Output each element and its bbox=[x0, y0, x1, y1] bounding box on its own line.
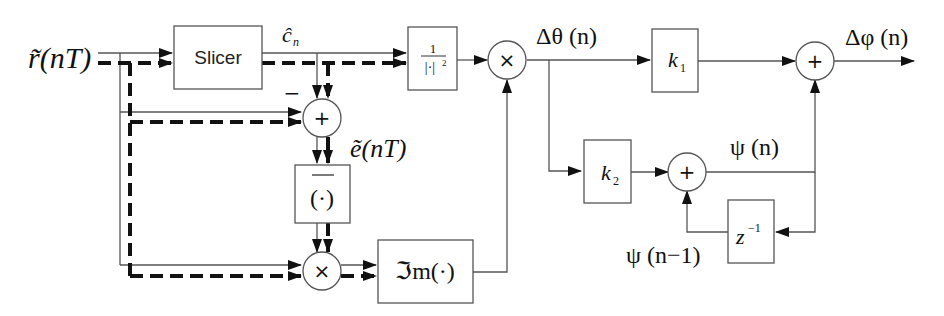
delta-phi-label: Δφ (n) bbox=[845, 24, 908, 50]
delta-theta-label: Δθ (n) bbox=[536, 23, 597, 49]
inverse-magnitude-block: 1 |·| 2 bbox=[408, 27, 457, 90]
minus-sign: − bbox=[284, 81, 301, 105]
dashed-signal-paths bbox=[98, 63, 406, 276]
conj-multiply-node: × bbox=[303, 252, 341, 290]
normalize-multiply-node: × bbox=[488, 41, 526, 79]
k1-gain-block: k 1 bbox=[652, 29, 698, 92]
svg-text:+: + bbox=[679, 160, 696, 184]
svg-text:2: 2 bbox=[442, 58, 447, 68]
svg-text:+: + bbox=[314, 106, 331, 130]
svg-text:×: × bbox=[499, 48, 516, 72]
svg-text:|·|: |·| bbox=[425, 60, 435, 75]
svg-text:1: 1 bbox=[430, 41, 437, 56]
svg-text:k: k bbox=[668, 47, 679, 72]
error-sum-node: + − bbox=[284, 81, 341, 137]
svg-text:z: z bbox=[735, 224, 745, 249]
svg-text:1: 1 bbox=[680, 61, 686, 75]
slicer-output-label: ĉ n bbox=[282, 22, 299, 49]
psi-prev-label: ψ (n−1) bbox=[626, 242, 701, 268]
svg-text:(·): (·) bbox=[310, 185, 334, 211]
svg-text:×: × bbox=[314, 259, 331, 283]
slicer-label: Slicer bbox=[194, 47, 242, 68]
svg-text:+: + bbox=[807, 49, 824, 73]
conjugate-block: (·) bbox=[295, 165, 350, 223]
svg-text:−1: −1 bbox=[748, 221, 761, 235]
k2-gain-block: k 2 bbox=[584, 140, 631, 203]
error-signal-label: ẽ(nT) bbox=[350, 134, 406, 163]
svg-text:ĉ: ĉ bbox=[282, 22, 292, 47]
imag-part-block: ℑm(·) bbox=[378, 240, 473, 303]
slicer-block: Slicer bbox=[174, 26, 262, 89]
svg-text:k: k bbox=[601, 160, 612, 185]
integrator-sum-node: + bbox=[668, 153, 706, 191]
psi-label: ψ (n) bbox=[730, 134, 779, 160]
svg-text:2: 2 bbox=[613, 174, 619, 188]
svg-text:n: n bbox=[293, 35, 299, 49]
input-signal-label: r̃(nT) bbox=[28, 41, 91, 75]
svg-text:ℑm(·): ℑm(·) bbox=[395, 258, 455, 284]
output-sum-node: + bbox=[796, 42, 834, 80]
delay-block: z −1 bbox=[728, 200, 774, 263]
block-diagram: Slicer 1 |·| 2 (·) ℑm(·) k 1 k 2 z −1 + … bbox=[0, 0, 944, 316]
